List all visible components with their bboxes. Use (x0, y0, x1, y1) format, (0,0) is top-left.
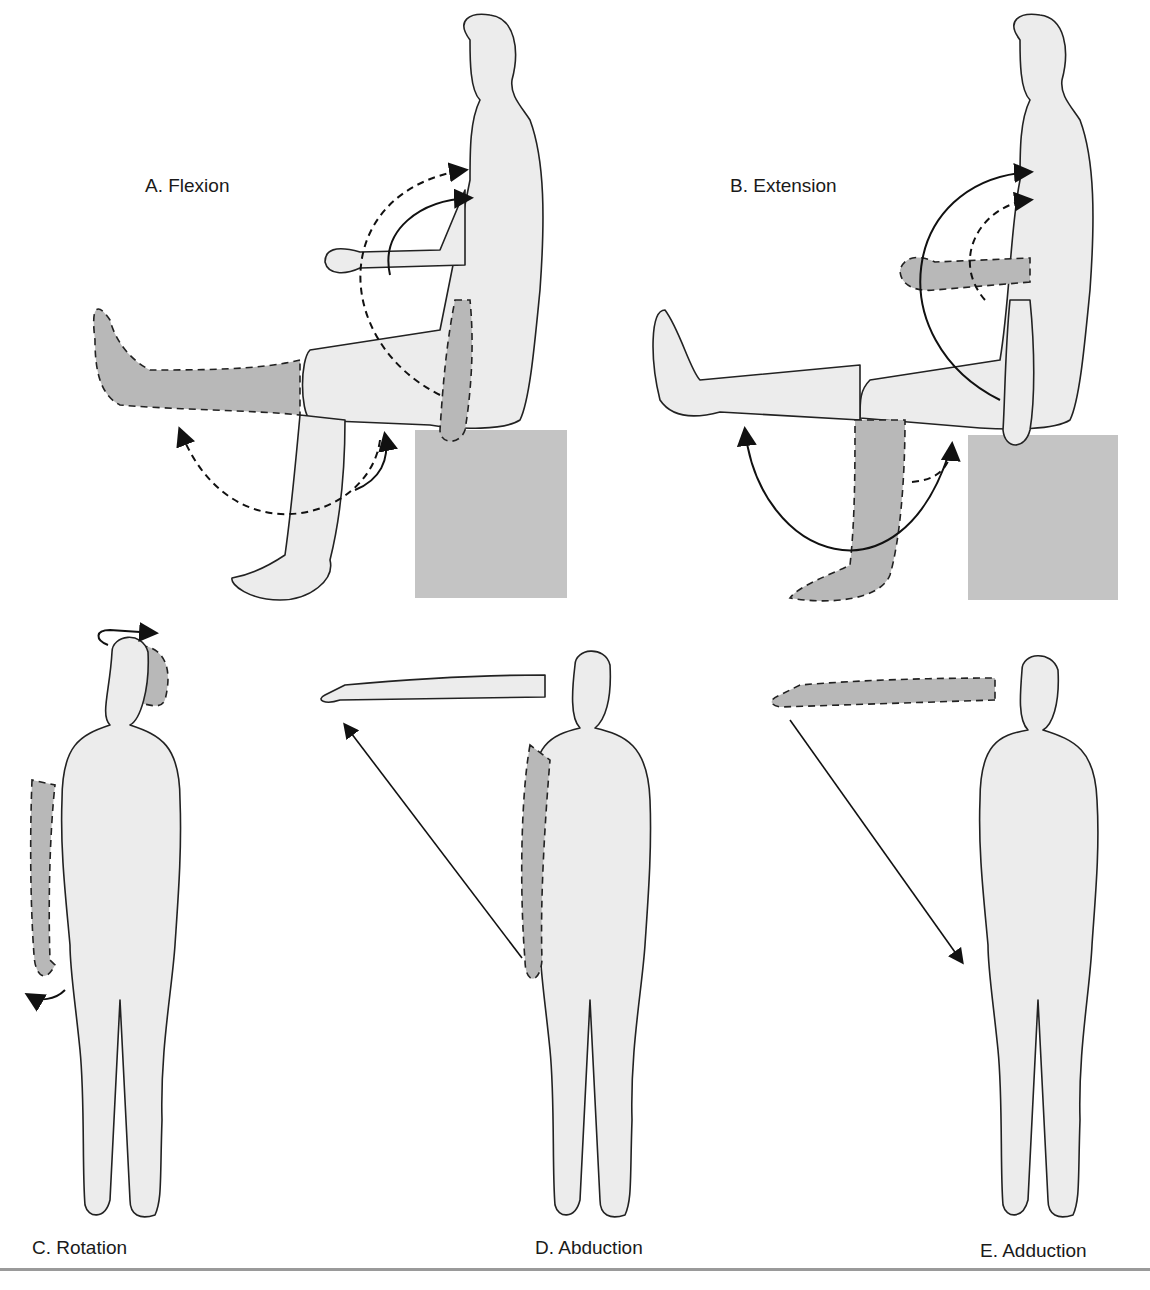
panel-b-extension (653, 14, 1118, 600)
seat-box-a (415, 430, 567, 598)
figure-e-raised-arm (772, 678, 995, 707)
figure-b-arm-down (1003, 300, 1034, 445)
label-adduction: E. Adduction (980, 1240, 1087, 1262)
label-rotation: C. Rotation (32, 1237, 127, 1259)
label-extension: B. Extension (730, 175, 837, 197)
bottom-rule (0, 1268, 1150, 1271)
figure-c-body (62, 637, 181, 1217)
figure-d-raised-arm (321, 675, 545, 702)
figure-b-lower-leg (790, 420, 905, 601)
figure-e-body (980, 656, 1098, 1217)
figure-d-body (532, 651, 651, 1217)
panel-a-flexion (94, 14, 567, 600)
figure-b-torso (860, 14, 1093, 429)
figure-c-arm-rotated (31, 780, 55, 976)
panel-e-adduction (772, 656, 1098, 1217)
panel-d-abduction (321, 651, 651, 1217)
figure-a-raised-leg (94, 309, 300, 415)
seat-box-b (968, 435, 1118, 600)
label-flexion: A. Flexion (145, 175, 229, 197)
panel-c-rotation (28, 630, 181, 1217)
label-abduction: D. Abduction (535, 1237, 643, 1259)
figure-b-raised-leg (653, 310, 860, 420)
figure-a-torso (303, 14, 543, 428)
